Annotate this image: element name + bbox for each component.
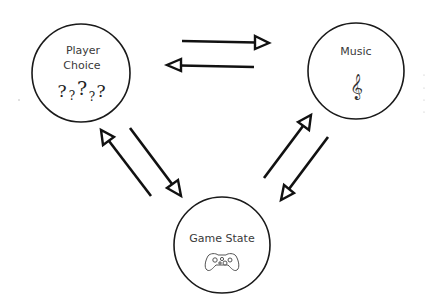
edges xyxy=(101,36,328,200)
node-player-choice: Player Choice ? ? ? ? ? xyxy=(32,24,130,122)
feedback-loop-diagram: Player Choice ? ? ? ? ? Music 𝄞 Game Sta… xyxy=(0,0,425,305)
arrow-shaft xyxy=(182,41,256,43)
arrow-player-choice-to-game-state xyxy=(130,128,181,196)
node-music-label: Music xyxy=(340,45,371,58)
arrow-game-state-to-player-choice xyxy=(101,130,151,196)
question-mark: ? xyxy=(89,90,95,104)
arrow-head xyxy=(167,180,181,196)
node-player-choice-circle xyxy=(32,24,130,122)
node-player-choice-label-line1: Player xyxy=(66,44,101,57)
question-mark: ? xyxy=(69,89,75,103)
speck xyxy=(423,87,424,88)
node-music-circle xyxy=(308,23,404,119)
arrow-head xyxy=(167,59,181,71)
arrow-head xyxy=(298,115,311,130)
question-mark: ? xyxy=(77,77,87,99)
controller-buttons xyxy=(228,258,232,262)
arrow-music-to-player-choice xyxy=(167,59,254,71)
arrow-head xyxy=(281,185,294,200)
node-game-state: Game State xyxy=(174,197,270,293)
speck xyxy=(423,111,424,112)
controller-dpad xyxy=(219,262,221,264)
controller-stick-right xyxy=(223,261,227,265)
node-music: Music 𝄞 xyxy=(308,23,404,119)
arrow-shaft xyxy=(264,126,303,178)
treble-clef-icon: 𝄞 xyxy=(350,74,363,100)
question-mark: ? xyxy=(57,81,66,101)
arrow-head xyxy=(101,130,114,145)
speck xyxy=(423,99,424,100)
node-player-choice-label-line2: Choice xyxy=(63,59,100,72)
arrow-shaft xyxy=(289,137,328,189)
node-game-state-label: Game State xyxy=(189,232,255,245)
arrow-player-choice-to-music xyxy=(182,36,269,49)
question-mark: ? xyxy=(96,81,105,101)
controller-button-center xyxy=(220,257,223,260)
arrow-shaft xyxy=(180,66,254,68)
controller-stick-left xyxy=(213,258,217,262)
arrow-head xyxy=(255,36,269,49)
speck xyxy=(423,74,424,75)
speck xyxy=(18,99,20,101)
node-game-state-circle xyxy=(174,197,270,293)
